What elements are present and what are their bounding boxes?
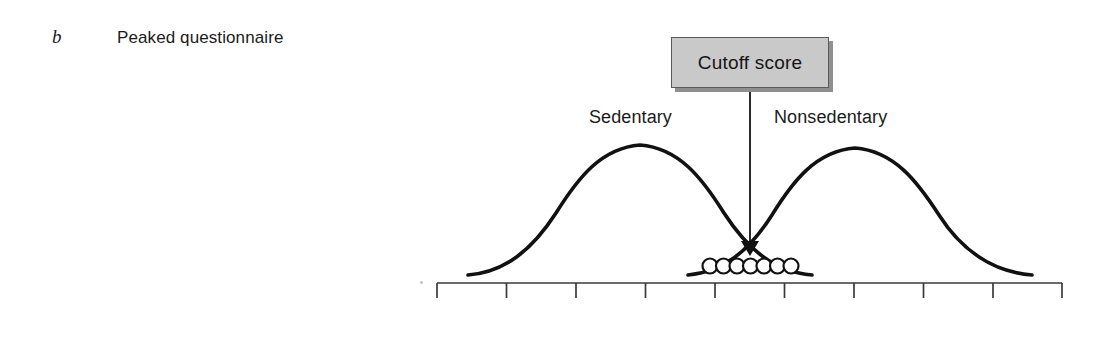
figure-panel-b: b Peaked questionnaire Cutoff score — [0, 0, 1117, 340]
curve-sedentary — [468, 145, 812, 275]
data-circle — [784, 259, 799, 274]
curve-label-sedentary: Sedentary — [589, 107, 672, 128]
curve-label-nonsedentary: Nonsedentary — [774, 107, 887, 128]
curve-nonsedentary — [688, 148, 1032, 275]
cutoff-score-callout: Cutoff score — [671, 37, 829, 88]
cutoff-score-label: Cutoff score — [698, 52, 803, 74]
distribution-plot — [0, 0, 1117, 340]
